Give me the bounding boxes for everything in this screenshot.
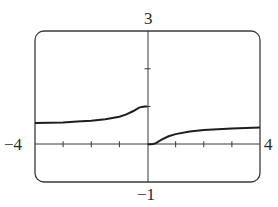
x-max-label: 4 — [264, 136, 273, 153]
y-max-label: 3 — [144, 10, 153, 27]
curve-left-branch — [35, 107, 147, 124]
x-min-label: −4 — [4, 136, 22, 153]
y-min-label: −1 — [137, 186, 155, 203]
graph-window — [0, 0, 278, 207]
